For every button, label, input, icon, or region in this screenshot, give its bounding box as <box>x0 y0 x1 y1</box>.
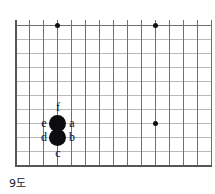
point-label-d: d <box>38 131 50 143</box>
grid-line-vertical <box>43 20 44 166</box>
grid-line-vertical <box>141 20 142 166</box>
star-point-top-left <box>55 23 60 28</box>
grid-line-vertical <box>99 20 100 166</box>
grid-line-vertical <box>127 20 128 166</box>
grid-line-vertical <box>29 20 30 166</box>
grid-line-vertical <box>155 20 156 166</box>
figure-container: f e a d b c 9도 <box>0 0 215 194</box>
star-point-right <box>153 121 158 126</box>
point-label-f: f <box>52 101 64 113</box>
point-label-c: c <box>52 147 64 159</box>
figure-caption: 9도 <box>9 177 26 191</box>
point-label-e: e <box>38 117 50 129</box>
black-stone-lower[interactable] <box>49 129 66 146</box>
board-edge-left <box>15 20 17 167</box>
board-edge-bottom <box>15 165 212 167</box>
grid-line-vertical <box>169 20 170 166</box>
star-point-top-right <box>153 23 158 28</box>
grid-line-vertical <box>211 20 212 166</box>
grid-line-vertical <box>197 20 198 166</box>
go-board: f e a d b c <box>0 0 215 178</box>
grid-line-vertical <box>71 20 72 166</box>
grid-line-vertical <box>85 20 86 166</box>
point-label-b: b <box>66 131 78 143</box>
grid-line-vertical <box>183 20 184 166</box>
grid-line-vertical <box>113 20 114 166</box>
point-label-a: a <box>66 117 78 129</box>
